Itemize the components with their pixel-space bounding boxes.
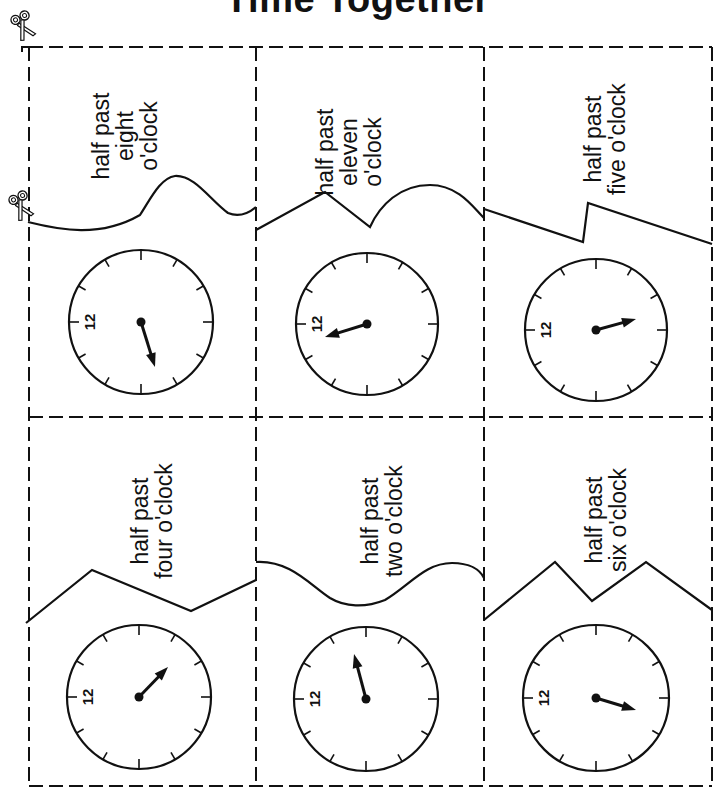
card-label-3: half past five o'clock [581,69,629,209]
clock-number-12: 12 [79,689,96,706]
clock-number-12: 12 [81,314,98,331]
label-line: eight [113,71,137,201]
card-label-2: half past eleven o'clock [313,87,385,217]
card-label-6: half past six o'clock [582,450,630,590]
clock-number-12: 12 [306,691,323,708]
clock-face: 12 [67,625,211,769]
arrow-head-icon [621,701,636,711]
label-line: six o'clock [606,450,630,590]
label-line: half past [581,69,605,209]
clock-face: 12 [69,250,213,394]
scissors-icon [9,10,36,42]
label-line: half past [582,450,606,590]
clock-number-12: 12 [537,322,554,339]
clock-center-dot [362,695,371,704]
card-label-4: half past four o'clock [128,451,176,591]
label-line: two o'clock [382,451,406,591]
clock-number-12: 12 [308,316,325,333]
clock-number-12: 12 [535,690,552,707]
card-label-5: half past two o'clock [358,451,406,591]
clock-face: 12 [523,625,669,771]
clock-center-dot [363,320,372,329]
label-line: half past [313,87,337,217]
label-line: five o'clock [605,69,629,209]
clock-center-dot [135,693,144,702]
clock-center-dot [592,694,601,703]
label-line: half past [89,71,113,201]
clock-face: 12 [525,259,667,401]
label-line: half past [128,451,152,591]
scissors-icon [7,190,34,222]
label-line: four o'clock [152,451,176,591]
label-line: eleven [337,87,361,217]
arrow-head-icon [325,328,340,338]
clock-center-dot [592,326,601,335]
card-label-1: half past eight o'clock [89,71,161,201]
clock-face: 12 [294,627,438,771]
label-line: o'clock [361,87,385,217]
label-line: half past [358,451,382,591]
arrow-head-icon [353,654,363,669]
clock-face: 12 [296,253,438,395]
arrow-head-icon [621,318,636,328]
clock-center-dot [137,318,146,327]
label-line: o'clock [137,71,161,201]
arrow-head-icon [146,352,156,367]
